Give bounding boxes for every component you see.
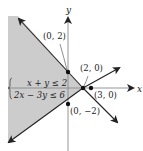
- point-2-0: [81, 86, 85, 90]
- label-0-neg2: (0, −2): [70, 106, 100, 116]
- label-3-0: (3, 0): [94, 90, 117, 100]
- inequality-2: 2x − 3y ≤ 6: [13, 90, 65, 100]
- y-axis-label: y: [65, 5, 72, 15]
- point-3-0: [89, 86, 93, 90]
- inequality-1: x + y ≤ 2: [27, 78, 67, 88]
- inequality-graph: y x (0, 2) (2, 0) (3, 0) (0, −2) x + y ≤…: [0, 0, 143, 151]
- leader-2-0: [84, 76, 88, 86]
- x-axis-label: x: [137, 84, 142, 94]
- label-0-2: (0, 2): [43, 31, 66, 41]
- point-0-2: [66, 70, 70, 74]
- label-2-0: (2, 0): [80, 63, 103, 73]
